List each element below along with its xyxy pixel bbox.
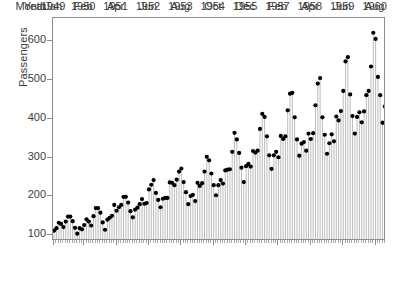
x-axis-minor-tick-mark	[95, 240, 96, 243]
data-point-marker	[376, 75, 380, 79]
x-axis-tick-mark	[213, 240, 214, 245]
x-axis-minor-tick-mark	[72, 240, 73, 243]
data-point-marker	[283, 134, 287, 138]
x-axis-minor-tick-mark	[208, 240, 209, 243]
x-axis-minor-tick-mark	[351, 240, 352, 243]
data-point-marker	[61, 225, 65, 229]
x-axis-minor-tick-mark	[104, 240, 105, 243]
data-point-marker	[318, 76, 322, 80]
x-axis-minor-tick-mark	[372, 240, 373, 243]
y-axis-title: Passengers	[17, 0, 31, 117]
x-axis-minor-tick-mark	[220, 240, 221, 243]
data-point-marker	[209, 171, 213, 175]
data-point-marker	[221, 182, 225, 186]
x-axis-minor-tick-mark	[365, 240, 366, 243]
data-point-marker	[165, 196, 169, 200]
data-point-marker	[147, 187, 151, 191]
x-axis-minor-tick-mark	[317, 240, 318, 243]
x-axis-minor-tick-mark	[227, 240, 228, 243]
x-axis-minor-tick-mark	[259, 240, 260, 243]
x-axis-minor-tick-mark	[243, 240, 244, 243]
x-axis-minor-tick-mark	[118, 240, 119, 243]
data-point-marker	[380, 121, 384, 125]
data-point-marker	[325, 152, 329, 156]
data-point-marker	[131, 215, 135, 219]
data-point-marker	[124, 195, 128, 199]
x-axis-minor-tick-mark	[173, 240, 174, 243]
x-axis-minor-tick-mark	[347, 240, 348, 243]
x-axis-minor-tick-mark	[146, 240, 147, 243]
x-axis-minor-tick-mark	[153, 240, 154, 243]
data-point-marker	[313, 103, 317, 107]
data-point-marker	[110, 214, 114, 218]
x-axis-minor-tick-mark	[157, 240, 158, 243]
data-series-canvas	[53, 18, 385, 240]
data-point-marker	[327, 141, 331, 145]
x-axis-minor-tick-mark	[79, 240, 80, 243]
x-axis-minor-tick-mark	[111, 240, 112, 243]
x-axis-minor-tick-mark	[377, 240, 378, 243]
x-axis-tick-mark	[53, 240, 54, 245]
x-axis-minor-tick-mark	[229, 240, 230, 243]
x-axis-minor-tick-mark	[190, 240, 191, 243]
data-point-marker	[158, 205, 162, 209]
data-point-marker	[295, 137, 299, 141]
data-point-marker	[182, 180, 186, 184]
x-axis-minor-tick-mark	[382, 240, 383, 243]
x-axis-minor-tick-mark	[185, 240, 186, 243]
y-axis-tick-label: 300	[6, 150, 46, 162]
x-axis-minor-tick-mark	[120, 240, 121, 243]
data-point-marker	[186, 202, 190, 206]
data-point-marker	[383, 104, 385, 108]
data-point-marker	[316, 81, 320, 85]
data-point-marker	[154, 191, 158, 195]
data-point-marker	[272, 153, 276, 157]
x-axis-minor-tick-mark	[206, 240, 207, 243]
data-point-marker	[73, 226, 77, 230]
x-axis-minor-tick-mark	[370, 240, 371, 243]
x-axis-minor-tick-mark	[266, 240, 267, 243]
data-point-marker	[193, 199, 197, 203]
data-point-marker	[332, 139, 336, 143]
y-axis-tick-label: 100	[6, 227, 46, 239]
data-point-marker	[334, 114, 338, 118]
data-point-marker	[172, 183, 176, 187]
data-point-marker	[175, 178, 179, 182]
x-axis-minor-tick-mark	[331, 240, 332, 243]
x-axis-minor-tick-mark	[102, 240, 103, 243]
x-axis-minor-tick-mark	[384, 240, 385, 243]
x-axis-minor-tick-mark	[284, 240, 285, 243]
x-axis-minor-tick-mark	[183, 240, 184, 243]
x-axis-minor-tick-mark	[358, 240, 359, 243]
data-point-marker	[265, 134, 269, 138]
x-axis-minor-tick-mark	[238, 240, 239, 243]
x-axis-minor-tick-mark	[328, 240, 329, 243]
data-point-marker	[353, 131, 357, 135]
x-axis-minor-tick-mark	[203, 240, 204, 243]
data-point-marker	[228, 167, 232, 171]
data-point-marker	[82, 223, 86, 227]
data-point-marker	[364, 93, 368, 97]
x-axis-minor-tick-mark	[129, 240, 130, 243]
data-point-marker	[179, 166, 183, 170]
data-point-marker	[216, 183, 220, 187]
data-point-marker	[138, 202, 142, 206]
data-point-marker	[309, 137, 313, 141]
x-axis-minor-tick-mark	[215, 240, 216, 243]
x-axis-minor-tick-mark	[268, 240, 269, 243]
x-axis-minor-tick-mark	[55, 240, 56, 243]
x-axis-minor-tick-mark	[234, 240, 235, 243]
x-axis-minor-tick-mark	[65, 240, 66, 243]
x-axis-minor-tick-mark	[92, 240, 93, 243]
data-point-marker	[369, 64, 373, 68]
data-point-marker	[357, 110, 361, 114]
x-axis-minor-tick-mark	[69, 240, 70, 243]
x-axis-minor-tick-mark	[97, 240, 98, 243]
x-axis-minor-tick-mark	[314, 240, 315, 243]
data-point-marker	[330, 132, 334, 136]
x-axis-minor-tick-mark	[231, 240, 232, 243]
x-axis-minor-tick-mark	[217, 240, 218, 243]
data-point-marker	[75, 232, 79, 236]
y-axis-tick-label: 500	[6, 72, 46, 84]
x-axis-minor-tick-mark	[289, 240, 290, 243]
